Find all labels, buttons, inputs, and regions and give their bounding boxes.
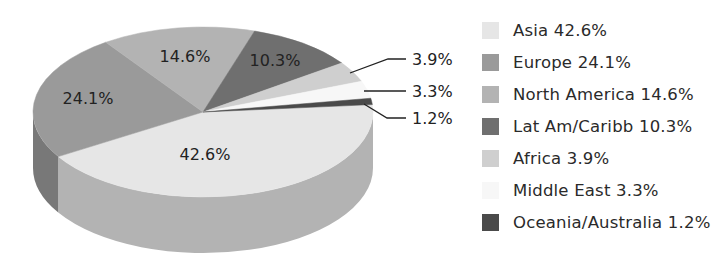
pie-chart: 42.6%24.1%14.6%10.3%3.9%3.3%1.2% bbox=[0, 0, 460, 255]
slice-label: 3.9% bbox=[412, 50, 453, 69]
legend-label: Asia 42.6% bbox=[513, 21, 607, 40]
legend: Asia 42.6% Europe 24.1% North America 14… bbox=[482, 14, 711, 238]
slice-label: 10.3% bbox=[250, 51, 301, 70]
legend-label: Europe 24.1% bbox=[513, 53, 631, 72]
legend-swatch bbox=[482, 214, 499, 231]
legend-swatch bbox=[482, 86, 499, 103]
legend-swatch bbox=[482, 54, 499, 71]
legend-item-lat-am-caribb: Lat Am/Caribb 10.3% bbox=[482, 110, 711, 142]
legend-label: Lat Am/Caribb 10.3% bbox=[513, 117, 692, 136]
legend-label: Africa 3.9% bbox=[513, 149, 609, 168]
legend-item-oceania-australia: Oceania/Australia 1.2% bbox=[482, 206, 711, 238]
slice-label: 42.6% bbox=[180, 145, 231, 164]
slice-label: 14.6% bbox=[160, 47, 211, 66]
legend-item-middle-east: Middle East 3.3% bbox=[482, 174, 711, 206]
legend-label: Oceania/Australia 1.2% bbox=[513, 213, 711, 232]
legend-swatch bbox=[482, 22, 499, 39]
legend-label: North America 14.6% bbox=[513, 85, 694, 104]
legend-swatch bbox=[482, 118, 499, 135]
legend-item-asia: Asia 42.6% bbox=[482, 14, 711, 46]
legend-swatch bbox=[482, 150, 499, 167]
legend-item-north-america: North America 14.6% bbox=[482, 78, 711, 110]
legend-item-europe: Europe 24.1% bbox=[482, 46, 711, 78]
legend-item-africa: Africa 3.9% bbox=[482, 142, 711, 174]
slice-label: 1.2% bbox=[412, 109, 453, 128]
legend-swatch bbox=[482, 182, 499, 199]
legend-label: Middle East 3.3% bbox=[513, 181, 659, 200]
slice-label: 3.3% bbox=[412, 82, 453, 101]
slice-label: 24.1% bbox=[63, 89, 114, 108]
callout-line bbox=[350, 59, 406, 73]
